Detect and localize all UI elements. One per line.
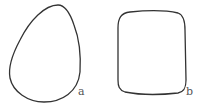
shape-a-label: a bbox=[78, 85, 85, 98]
shape-b-label: b bbox=[186, 85, 193, 98]
shape-a-egg bbox=[9, 5, 80, 102]
shape-b-rounded-square bbox=[118, 11, 186, 95]
diagram-canvas: a b bbox=[0, 0, 205, 106]
